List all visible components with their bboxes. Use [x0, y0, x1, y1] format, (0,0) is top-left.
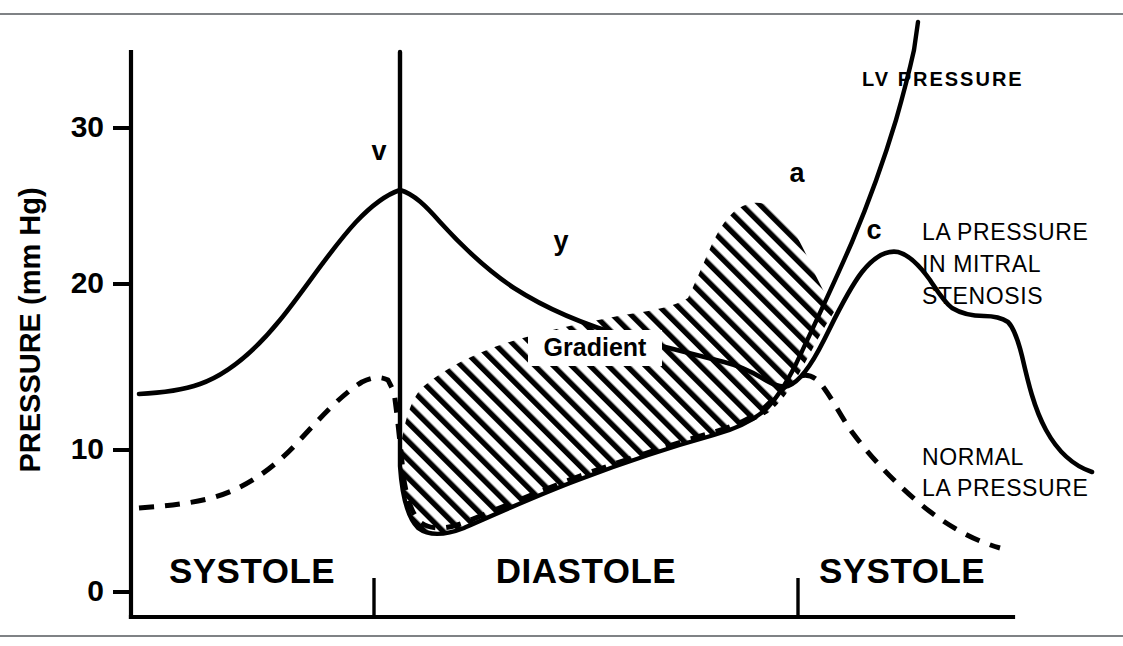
- annotation-la-pressure-line1: LA PRESSURE: [922, 219, 1088, 245]
- annotation-lv-pressure: LV PRESSURE: [862, 68, 1024, 90]
- annotation-la-pressure-line2: IN MITRAL: [922, 251, 1041, 277]
- gradient-label-group: Gradient: [528, 330, 662, 366]
- wave-label-a: a: [789, 158, 805, 188]
- phase-label-systole-left: SYSTOLE: [169, 551, 335, 590]
- y-tick-label-10: 10: [71, 432, 104, 465]
- y-tick-label-20: 20: [71, 266, 104, 299]
- gradient-label: Gradient: [544, 333, 647, 361]
- figure-page: 30 20 10 0 PRESSURE (mm Hg) Gradient v y…: [0, 0, 1123, 646]
- phase-label-systole-right: SYSTOLE: [819, 551, 985, 590]
- phase-label-diastole: DIASTOLE: [496, 551, 676, 590]
- annotation-normal-la-line2: LA PRESSURE: [922, 475, 1088, 501]
- annotation-normal-la-line1: NORMAL: [922, 444, 1024, 470]
- annotation-la-pressure-line3: STENOSIS: [922, 283, 1043, 309]
- y-axis-title: PRESSURE (mm Hg): [14, 187, 46, 472]
- wave-label-c: c: [866, 215, 881, 245]
- y-tick-label-30: 30: [71, 110, 104, 143]
- y-tick-label-0: 0: [87, 574, 104, 607]
- pressure-tracing-chart: 30 20 10 0 PRESSURE (mm Hg) Gradient v y…: [0, 0, 1123, 646]
- wave-label-y: y: [553, 226, 568, 256]
- wave-label-v: v: [371, 136, 386, 166]
